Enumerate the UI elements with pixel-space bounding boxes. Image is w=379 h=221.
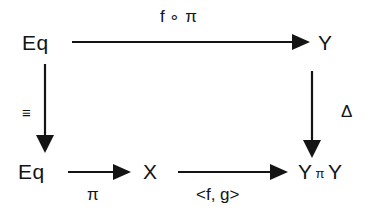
edge-label-pair-f-g: <f, g> (196, 186, 239, 203)
arrow-bottom-x-to-product (178, 164, 288, 180)
arrow-top-eq-to-y (72, 34, 310, 50)
node-top-left-eq: Eq (22, 32, 49, 53)
product-left-y: Y (298, 160, 313, 183)
product-right-y: Y (328, 160, 343, 183)
arrow-left-eq-to-eq (36, 64, 54, 153)
arrow-bottom-eq-to-x (68, 164, 131, 180)
product-symbol-icon: π (313, 166, 328, 181)
edge-label-pi: π (87, 186, 99, 203)
edge-label-f-compose-pi: f ∘ π (160, 8, 197, 25)
node-top-right-y: Y (318, 32, 333, 53)
commutative-diagram: Eq Y Eq X YπY f ∘ π ≡ Δ π <f, g> (0, 0, 379, 221)
node-bottom-right-product: YπY (298, 161, 343, 182)
edge-label-delta: Δ (341, 103, 352, 120)
node-bottom-left-eq: Eq (18, 161, 45, 182)
edge-label-identity: ≡ (22, 105, 31, 120)
node-bottom-mid-x: X (143, 161, 158, 182)
arrow-right-y-to-product (303, 71, 321, 158)
